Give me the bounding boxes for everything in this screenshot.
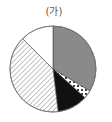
pie-chart xyxy=(0,0,112,122)
pie-slices xyxy=(10,26,96,112)
